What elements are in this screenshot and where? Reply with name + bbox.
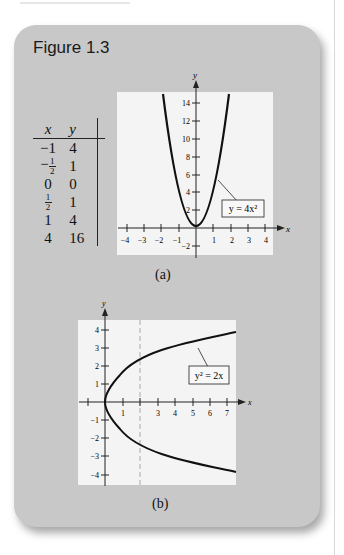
svg-text:1: 1 [121,409,125,418]
svg-text:−1: −1 [90,416,99,425]
svg-text:−2: −2 [90,434,99,443]
svg-text:5: 5 [191,409,195,418]
svg-text:−3: −3 [90,452,99,461]
svg-text:3: 3 [156,409,160,418]
caption-b: (b) [152,496,168,512]
svg-text:4: 4 [173,409,177,418]
svg-text:2: 2 [95,362,99,371]
annotation-b: y² = 2x [195,370,224,381]
svg-text:x: x [247,398,252,407]
svg-text:3: 3 [95,344,99,353]
svg-text:1: 1 [95,380,99,389]
svg-text:4: 4 [95,326,99,335]
svg-text:6: 6 [208,409,212,418]
graph-b-sideways-parabola: x y 134 567 4321 −1−2−3−4 y² = 2x [0,0,344,555]
svg-text:−4: −4 [90,471,99,480]
svg-text:y: y [101,299,106,308]
svg-text:7: 7 [225,409,229,418]
